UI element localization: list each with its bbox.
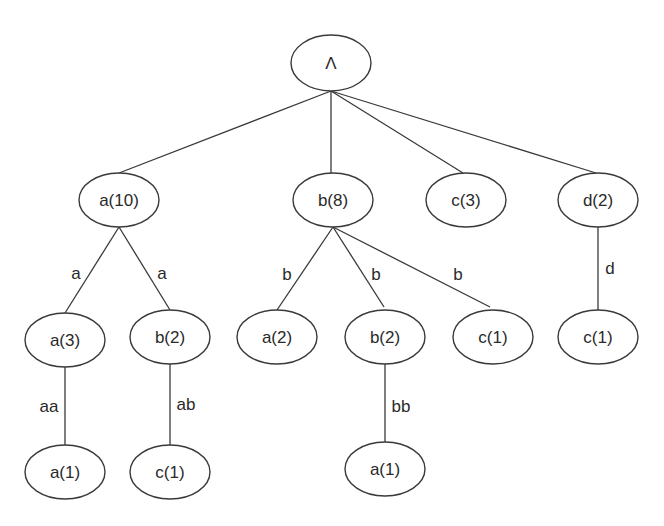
node-label: b(2) <box>155 328 185 347</box>
node-ba2: a(2) <box>237 310 317 364</box>
node-label: a(1) <box>370 460 400 479</box>
edge-label: b <box>282 265 291 284</box>
edge-label: b <box>453 265 462 284</box>
edge-label: b <box>371 265 380 284</box>
node-label: Λ <box>325 54 337 73</box>
node-b8: b(8) <box>293 173 373 227</box>
node-label: a(10) <box>99 191 139 210</box>
node-label: b(8) <box>318 191 348 210</box>
node-dc1: c(1) <box>558 310 638 364</box>
edge-label: d <box>605 259 614 278</box>
node-label: c(1) <box>478 328 507 347</box>
edge-root-d2 <box>331 91 596 173</box>
node-bb2: b(2) <box>345 310 425 364</box>
edge-label: a <box>71 264 81 283</box>
node-c3: c(3) <box>426 173 506 227</box>
node-aaa1: a(1) <box>25 445 105 499</box>
node-a3: a(3) <box>25 313 105 367</box>
edge-label: bb <box>392 397 411 416</box>
edge-root-c3 <box>331 91 463 173</box>
node-label: c(1) <box>583 328 612 347</box>
edge-b8-bc1 <box>333 227 490 307</box>
tree-diagram: aabbbdaaabbb Λa(10)b(8)c(3)d(2)a(3)b(2)a… <box>0 0 664 526</box>
node-label: a(1) <box>50 463 80 482</box>
node-abc1: c(1) <box>130 445 210 499</box>
node-label: b(2) <box>370 328 400 347</box>
node-a10: a(10) <box>79 173 159 227</box>
edges <box>65 91 598 445</box>
node-label: a(3) <box>50 331 80 350</box>
node-label: a(2) <box>262 328 292 347</box>
node-bc1: c(1) <box>453 310 533 364</box>
node-label: c(1) <box>155 463 184 482</box>
node-d2: d(2) <box>558 173 638 227</box>
edge-label: ab <box>177 395 196 414</box>
node-root: Λ <box>291 35 371 91</box>
edge-label: a <box>157 264 167 283</box>
node-ab2: b(2) <box>130 310 210 364</box>
edge-root-a10 <box>119 91 331 173</box>
edge-label: aa <box>40 397 59 416</box>
node-label: d(2) <box>583 191 613 210</box>
node-bba1: a(1) <box>345 442 425 496</box>
node-label: c(3) <box>451 191 480 210</box>
